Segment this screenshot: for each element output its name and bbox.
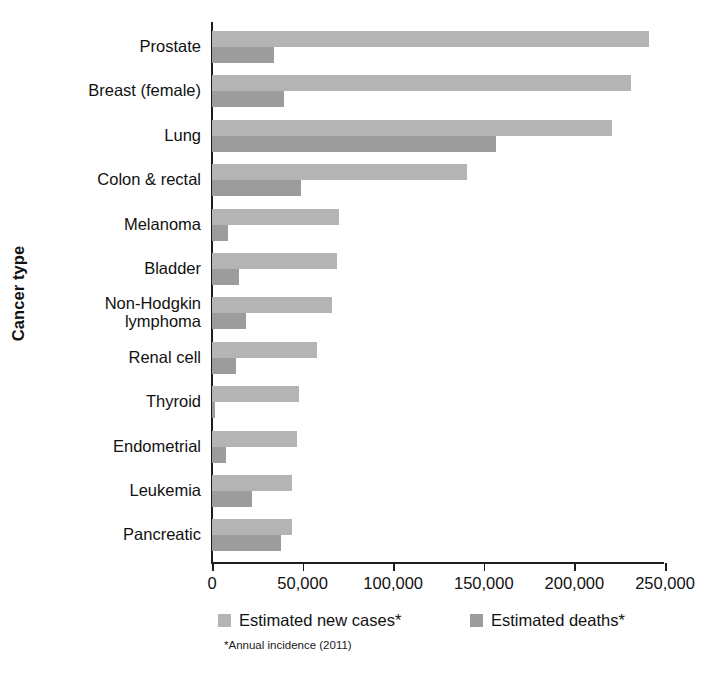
- bar-estimated-deaths: [212, 136, 496, 152]
- bar-row: Lung: [212, 120, 677, 152]
- bar-estimated-deaths: [212, 535, 281, 551]
- category-label: Non-Hodgkinlymphoma: [105, 295, 201, 330]
- bar-row: Renal cell: [212, 342, 677, 374]
- bar-estimated-new-cases: [212, 519, 292, 535]
- chart-legend: Estimated new cases*Estimated deaths*: [218, 611, 698, 635]
- bar-row: Pancreatic: [212, 519, 677, 551]
- x-axis-tick-label: 150,000: [454, 574, 514, 593]
- bar-estimated-new-cases: [212, 120, 612, 136]
- category-label-line: Leukemia: [129, 482, 201, 500]
- bar-estimated-deaths: [212, 402, 215, 418]
- category-label: Colon & rectal: [97, 171, 201, 189]
- category-label: Leukemia: [129, 482, 201, 500]
- category-label-line: Endometrial: [113, 438, 201, 456]
- cancer-incidence-bar-chart: Cancer type 050,000100,000150,000200,000…: [0, 0, 721, 678]
- x-axis-tick: [484, 563, 486, 571]
- bar-estimated-new-cases: [212, 164, 467, 180]
- bar-estimated-deaths: [212, 447, 226, 463]
- category-label-line: Bladder: [144, 260, 201, 278]
- bar-row: Colon & rectal: [212, 164, 677, 196]
- legend-label: Estimated deaths*: [491, 611, 625, 630]
- bar-row: Thyroid: [212, 386, 677, 418]
- category-label-line: Thyroid: [146, 393, 201, 411]
- legend-item: Estimated deaths*: [470, 611, 625, 630]
- category-label: Renal cell: [129, 349, 201, 367]
- bar-estimated-deaths: [212, 225, 228, 241]
- bar-estimated-new-cases: [212, 431, 297, 447]
- bar-row: Leukemia: [212, 475, 677, 507]
- bar-row: Breast (female): [212, 75, 677, 107]
- x-axis-tick: [303, 563, 305, 571]
- plot-area: 050,000100,000150,000200,000250,000 Pros…: [212, 22, 677, 562]
- x-axis-line: [211, 562, 664, 564]
- x-axis-tick-label: 250,000: [635, 574, 695, 593]
- category-label-line: Non-Hodgkin: [105, 295, 201, 313]
- x-axis-tick-label: 50,000: [277, 574, 327, 593]
- x-axis-tick: [212, 563, 214, 571]
- bar-estimated-new-cases: [212, 75, 631, 91]
- category-label-line: Colon & rectal: [97, 171, 201, 189]
- bar-estimated-new-cases: [212, 386, 299, 402]
- y-axis-title: Cancer type: [9, 214, 28, 374]
- category-label: Pancreatic: [123, 526, 201, 544]
- x-axis-tick: [665, 563, 667, 571]
- x-axis-tick-label: 0: [207, 574, 216, 593]
- category-label-line: lymphoma: [105, 313, 201, 331]
- bar-estimated-new-cases: [212, 253, 337, 269]
- legend-swatch-icon: [218, 614, 231, 627]
- bar-estimated-deaths: [212, 313, 246, 329]
- bar-row: Bladder: [212, 253, 677, 285]
- bar-estimated-new-cases: [212, 342, 317, 358]
- x-axis-tick: [574, 563, 576, 571]
- x-axis-tick-label: 200,000: [545, 574, 605, 593]
- category-label: Melanoma: [124, 216, 201, 234]
- bar-estimated-deaths: [212, 491, 252, 507]
- bar-estimated-new-cases: [212, 475, 292, 491]
- category-label-line: Renal cell: [129, 349, 201, 367]
- category-label: Breast (female): [88, 82, 201, 100]
- bar-estimated-deaths: [212, 358, 236, 374]
- bar-estimated-new-cases: [212, 31, 649, 47]
- bar-estimated-deaths: [212, 91, 284, 107]
- category-label: Endometrial: [113, 438, 201, 456]
- category-label-line: Lung: [164, 127, 201, 145]
- category-label: Bladder: [144, 260, 201, 278]
- x-axis-tick: [393, 563, 395, 571]
- bar-estimated-new-cases: [212, 209, 339, 225]
- category-label-line: Pancreatic: [123, 526, 201, 544]
- category-label: Lung: [164, 127, 201, 145]
- bar-estimated-deaths: [212, 180, 301, 196]
- chart-footnote: *Annual incidence (2011): [224, 639, 352, 651]
- legend-item: Estimated new cases*: [218, 611, 401, 630]
- category-label: Thyroid: [146, 393, 201, 411]
- bar-estimated-deaths: [212, 269, 239, 285]
- category-label-line: Breast (female): [88, 82, 201, 100]
- legend-swatch-icon: [470, 614, 483, 627]
- x-axis-tick-label: 100,000: [363, 574, 423, 593]
- category-label-line: Melanoma: [124, 216, 201, 234]
- category-label-line: Prostate: [140, 38, 201, 56]
- bar-row: Non-Hodgkinlymphoma: [212, 297, 677, 329]
- bar-estimated-new-cases: [212, 297, 332, 313]
- bar-row: Endometrial: [212, 431, 677, 463]
- legend-label: Estimated new cases*: [239, 611, 401, 630]
- bar-row: Melanoma: [212, 209, 677, 241]
- bar-row: Prostate: [212, 31, 677, 63]
- category-label: Prostate: [140, 38, 201, 56]
- bar-estimated-deaths: [212, 47, 274, 63]
